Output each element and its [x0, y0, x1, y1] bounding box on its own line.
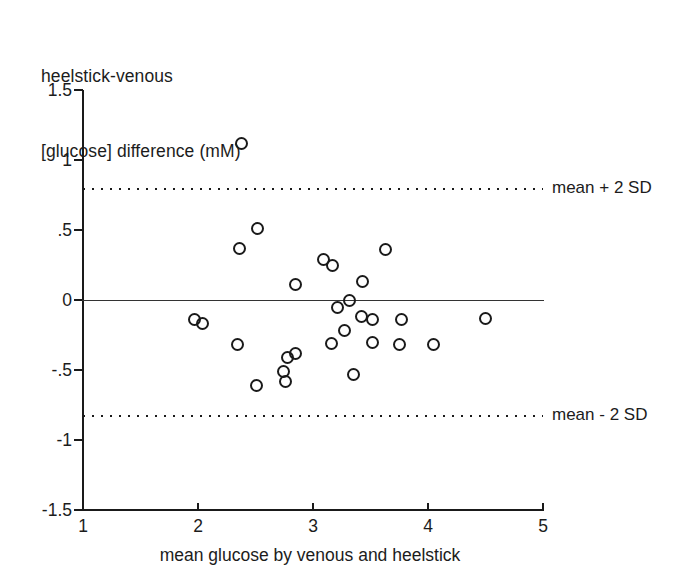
sd-reference-line — [83, 188, 543, 190]
x-tick-mark — [542, 503, 544, 511]
data-point — [289, 278, 302, 291]
data-point — [231, 338, 244, 351]
data-point — [347, 368, 360, 381]
y-tick-label: 1.5 — [2, 80, 72, 101]
y-tick-mark — [74, 229, 83, 231]
x-tick-mark — [312, 503, 314, 511]
y-tick-mark — [74, 89, 83, 91]
y-tick-mark — [74, 439, 83, 441]
y-tick-label: 0 — [2, 290, 72, 311]
data-point — [279, 375, 292, 388]
y-tick-mark — [74, 369, 83, 371]
x-axis-title: mean glucose by venous and heelstick — [0, 545, 620, 566]
data-point — [281, 351, 294, 364]
data-point — [366, 336, 379, 349]
y-tick-mark — [74, 509, 83, 511]
mean-reference-line — [82, 300, 544, 301]
data-point — [356, 275, 369, 288]
data-point — [395, 313, 408, 326]
data-point — [366, 313, 379, 326]
x-tick-mark — [427, 503, 429, 511]
x-tick-mark — [197, 503, 199, 511]
plot-area: 1.51.50-.5-1-1.5 12345 mean + 2 SDmean -… — [0, 0, 695, 579]
data-point — [325, 337, 338, 350]
y-tick-mark — [74, 159, 83, 161]
bland-altman-figure: heelstick-venous [glucose] difference (m… — [0, 0, 695, 579]
data-point — [331, 301, 344, 314]
sd-line-caption: mean - 2 SD — [552, 405, 647, 425]
data-point — [251, 222, 264, 235]
data-point — [250, 379, 263, 392]
sd-line-caption: mean + 2 SD — [552, 178, 652, 198]
data-point — [326, 259, 339, 272]
data-point — [393, 338, 406, 351]
data-point — [379, 243, 392, 256]
data-point — [233, 242, 246, 255]
x-tick-label: 1 — [63, 516, 103, 537]
y-tick-label: .5 — [2, 220, 72, 241]
sd-reference-line — [83, 415, 543, 417]
data-point — [338, 324, 351, 337]
data-point — [235, 137, 248, 150]
y-tick-label: -.5 — [2, 360, 72, 381]
data-point — [427, 338, 440, 351]
data-point — [196, 317, 209, 330]
data-point — [479, 312, 492, 325]
x-tick-label: 5 — [523, 516, 563, 537]
x-tick-label: 3 — [293, 516, 333, 537]
y-tick-label: -1 — [2, 430, 72, 451]
data-point — [343, 294, 356, 307]
x-tick-label: 4 — [408, 516, 448, 537]
y-tick-label: -1.5 — [2, 500, 72, 521]
x-tick-label: 2 — [178, 516, 218, 537]
y-tick-label: 1 — [2, 150, 72, 171]
